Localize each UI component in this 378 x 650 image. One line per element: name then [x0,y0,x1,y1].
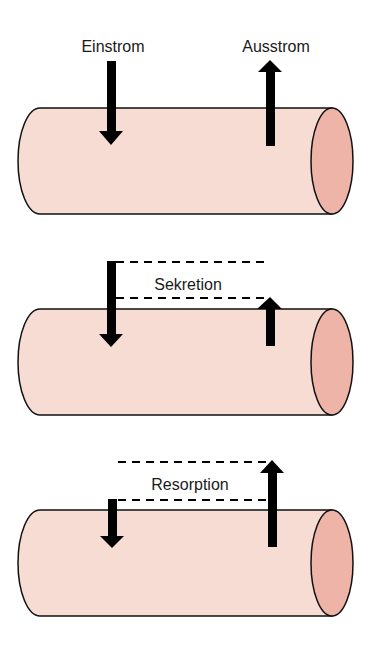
panel-resorption: Resorption [18,460,353,616]
panel-secretion: Sekretion [18,261,353,415]
efflux-label: Ausstrom [242,38,310,55]
influx-arrow-icon [99,261,123,347]
secretion-label: Sekretion [154,276,222,293]
tube-cylinder [18,510,353,616]
tube-cylinder [18,108,353,214]
influx-arrow-icon [99,61,123,145]
flux-diagram: Einstrom Ausstrom Sekretion [0,0,378,650]
influx-label: Einstrom [81,38,144,55]
panel-baseline: Einstrom Ausstrom [18,38,353,214]
resorption-label: Resorption [151,476,228,493]
tube-cylinder [18,309,353,415]
